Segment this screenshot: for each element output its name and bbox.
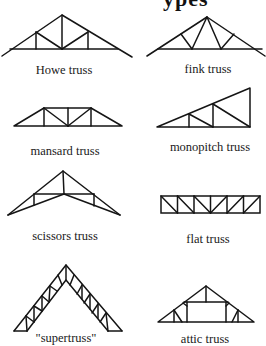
mansard-truss-diagram xyxy=(14,108,122,126)
scissors-truss-diagram xyxy=(8,171,120,215)
truss-diagrams xyxy=(0,0,266,346)
monopitch-truss-diagram xyxy=(157,88,250,127)
attic-truss-label: attic truss xyxy=(181,332,229,346)
mansard-truss-label: mansard truss xyxy=(30,144,99,159)
monopitch-truss-label: monopitch truss xyxy=(170,140,250,155)
flat-truss-diagram xyxy=(161,196,260,213)
flat-truss-label: flat truss xyxy=(186,232,229,247)
scissors-truss-label: scissors truss xyxy=(32,229,98,244)
attic-truss-diagram xyxy=(158,286,254,322)
supertruss-diagram xyxy=(14,265,122,331)
supertruss-label: "supertruss" xyxy=(36,331,97,346)
howe-truss-label: Howe truss xyxy=(36,63,93,78)
howe-truss-diagram xyxy=(2,15,132,57)
fink-truss-label: fink truss xyxy=(185,62,232,77)
fink-truss-diagram xyxy=(147,17,265,56)
